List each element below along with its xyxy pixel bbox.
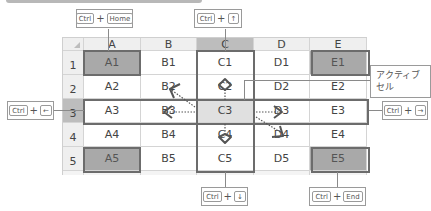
top-banner bbox=[6, 0, 202, 3]
end-key: End bbox=[343, 191, 362, 202]
cell-d4[interactable]: D4 bbox=[254, 123, 310, 147]
ctrl-key: Ctrl bbox=[384, 105, 402, 116]
cell-e3[interactable]: E3 bbox=[310, 99, 367, 123]
cell-b3[interactable]: B3 bbox=[141, 99, 197, 123]
cell-d2[interactable]: D2 bbox=[254, 75, 310, 99]
shortcut-callout-ctrl-end: Ctrl + End bbox=[309, 187, 366, 206]
plus-sign: + bbox=[96, 13, 104, 24]
cell-d3[interactable]: D3 bbox=[254, 99, 310, 123]
cell-e2[interactable]: E2 bbox=[310, 75, 367, 99]
cell-e4[interactable]: E4 bbox=[310, 123, 367, 147]
cell-b4[interactable]: B4 bbox=[141, 123, 197, 147]
row-header-2[interactable]: 2 bbox=[63, 75, 84, 99]
ctrl-key: Ctrl bbox=[203, 191, 221, 202]
cell-b5[interactable]: B5 bbox=[141, 147, 197, 171]
row-header-4[interactable]: 4 bbox=[63, 123, 84, 147]
cell-b2[interactable]: B2 bbox=[141, 75, 197, 99]
ctrl-key: Ctrl bbox=[312, 191, 330, 202]
connector-line-right bbox=[369, 110, 382, 111]
connector-line-active-cell-drop bbox=[244, 80, 245, 100]
arrow-down-key: ↓ bbox=[234, 191, 246, 202]
active-cell-c3[interactable]: C3 bbox=[197, 99, 254, 123]
grid-bottom-pad bbox=[141, 171, 197, 175]
cell-a4[interactable]: A4 bbox=[84, 123, 141, 147]
shortcut-callout-ctrl-down: Ctrl + ↓ bbox=[201, 187, 248, 206]
connector-line-end bbox=[337, 172, 338, 187]
cell-e5-highlight bbox=[311, 147, 370, 173]
column-header-b[interactable]: B bbox=[141, 38, 197, 51]
connector-line-home bbox=[108, 29, 109, 51]
ctrl-key: Ctrl bbox=[76, 13, 94, 24]
cell-d5[interactable]: D5 bbox=[254, 147, 310, 171]
connector-line-left bbox=[54, 110, 84, 111]
shortcut-callout-ctrl-left: Ctrl + ← bbox=[7, 101, 54, 120]
grid-bottom-pad bbox=[254, 171, 310, 175]
home-key: Home bbox=[107, 13, 134, 24]
shortcut-callout-ctrl-home: Ctrl + Home bbox=[76, 9, 133, 28]
arrow-up-key: ↑ bbox=[228, 13, 240, 24]
cell-a2[interactable]: A2 bbox=[84, 75, 141, 99]
connector-line-down bbox=[225, 172, 226, 187]
cell-c2[interactable]: C2 bbox=[197, 75, 254, 99]
active-cell-label: アクティブセル bbox=[370, 65, 431, 98]
cell-a1-highlight bbox=[83, 50, 141, 76]
grid-bottom-pad bbox=[63, 171, 84, 175]
shortcut-callout-ctrl-up: Ctrl + ↑ bbox=[194, 9, 242, 28]
connector-line-up bbox=[225, 29, 226, 51]
plus-sign: + bbox=[217, 13, 225, 24]
plus-sign: + bbox=[224, 191, 232, 202]
row-header-3[interactable]: 3 bbox=[63, 99, 84, 123]
column-header-d[interactable]: D bbox=[254, 38, 310, 51]
shortcut-callout-ctrl-right: Ctrl + → bbox=[382, 101, 428, 120]
cell-e1-highlight bbox=[311, 50, 370, 76]
cell-c1[interactable]: C1 bbox=[197, 51, 254, 75]
ctrl-key: Ctrl bbox=[9, 105, 27, 116]
plus-sign: + bbox=[404, 105, 412, 116]
cell-c5[interactable]: C5 bbox=[197, 147, 254, 171]
select-all-corner[interactable] bbox=[63, 38, 84, 51]
connector-line-active-cell bbox=[244, 80, 370, 81]
arrow-right-key: → bbox=[415, 105, 427, 116]
ctrl-key: Ctrl bbox=[197, 13, 215, 24]
cell-a5-highlight bbox=[83, 147, 141, 173]
row-header-1[interactable]: 1 bbox=[63, 51, 84, 75]
cell-b1[interactable]: B1 bbox=[141, 51, 197, 75]
cell-d1[interactable]: D1 bbox=[254, 51, 310, 75]
row-header-5[interactable]: 5 bbox=[63, 147, 84, 171]
cell-c4[interactable]: C4 bbox=[197, 123, 254, 147]
arrow-left-key: ← bbox=[40, 105, 52, 116]
plus-sign: + bbox=[30, 105, 38, 116]
cell-a3[interactable]: A3 bbox=[84, 99, 141, 123]
plus-sign: + bbox=[333, 191, 341, 202]
